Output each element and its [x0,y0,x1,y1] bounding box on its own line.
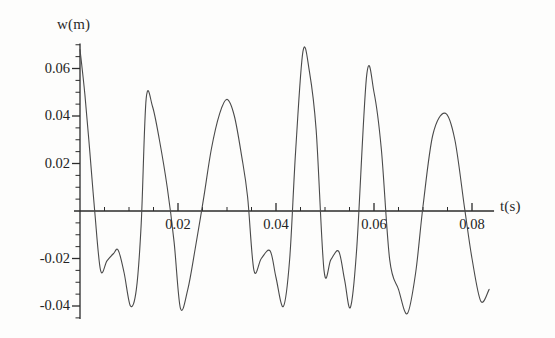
y-tick-label: -0.02 [14,250,70,267]
y-tick-label: 0.02 [14,155,70,172]
x-tick-label: 0.04 [246,216,306,233]
x-axis-title: t(s) [500,198,521,215]
chart-figure: w(m) t(s) 0.060.040.02-0.02-0.040.020.04… [0,0,555,338]
y-tick-label: 0.06 [14,60,70,77]
y-axis-title: w(m) [57,16,90,33]
data-curve [80,47,489,314]
x-tick-label: 0.06 [344,216,404,233]
x-tick-label: 0.02 [148,216,208,233]
waveform-plot [0,0,555,338]
x-tick-label: 0.08 [442,216,502,233]
axes-group [72,44,494,320]
y-tick-label: -0.04 [14,297,70,314]
y-tick-label: 0.04 [14,107,70,124]
